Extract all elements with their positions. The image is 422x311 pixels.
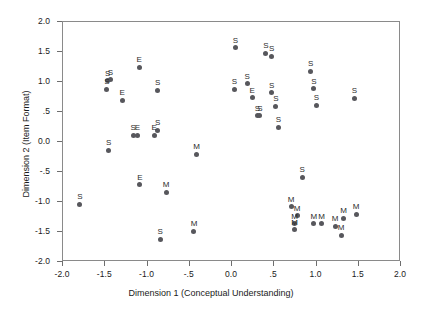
data-point-label: E <box>117 89 127 97</box>
data-point <box>232 87 237 92</box>
data-point-label: E <box>132 124 142 132</box>
x-tick-label: -1.0 <box>130 269 164 279</box>
data-point-label: S <box>242 73 252 81</box>
y-tick <box>57 201 62 202</box>
data-point-label: E <box>149 124 159 132</box>
data-point-label: E <box>135 174 145 182</box>
data-point <box>135 133 140 138</box>
data-point-label: M <box>161 181 171 189</box>
data-point <box>164 190 169 195</box>
x-tick-label: .5 <box>256 269 290 279</box>
data-point-label: S <box>306 60 316 68</box>
data-point <box>191 229 196 234</box>
x-tick-label: -.5 <box>172 269 206 279</box>
y-tick-label: -2.0 <box>20 256 50 266</box>
data-point <box>354 212 359 217</box>
x-tick <box>147 261 148 266</box>
y-axis-title: Dimension 2 (Item Format) <box>21 90 31 197</box>
data-point-label: S <box>271 95 281 103</box>
data-point-label: E <box>247 87 257 95</box>
data-point <box>300 175 305 180</box>
data-point-label: S <box>104 139 114 147</box>
data-point-label: E <box>134 56 144 64</box>
x-tick <box>358 261 359 266</box>
data-point-label: S <box>312 94 322 102</box>
x-tick <box>273 261 274 266</box>
data-point-label: S <box>273 116 283 124</box>
data-point <box>311 221 316 226</box>
data-point-label: M <box>330 215 340 223</box>
data-point-label: S <box>255 105 265 113</box>
data-point-label: M <box>317 213 327 221</box>
data-point <box>137 182 142 187</box>
data-point <box>106 148 111 153</box>
y-tick <box>57 171 62 172</box>
data-point <box>314 103 319 108</box>
x-tick-label: -2.0 <box>45 269 79 279</box>
x-tick <box>62 261 63 266</box>
y-tick-label: 2.0 <box>20 16 50 26</box>
x-tick-label: 2.0 <box>383 269 417 279</box>
data-point-label: S <box>153 79 163 87</box>
data-point-label: S <box>105 69 115 77</box>
y-tick <box>57 81 62 82</box>
data-point <box>276 125 281 130</box>
data-point <box>273 104 278 109</box>
data-point <box>257 113 262 118</box>
data-point <box>245 81 250 86</box>
data-point <box>311 86 316 91</box>
x-tick-label: 0.0 <box>214 269 248 279</box>
data-point-label: S <box>155 228 165 236</box>
x-tick <box>400 261 401 266</box>
data-point-label: S <box>350 87 360 95</box>
data-point <box>269 54 274 59</box>
data-point-label: M <box>192 143 202 151</box>
y-tick <box>57 141 62 142</box>
data-point <box>104 87 109 92</box>
data-point-label: S <box>102 78 112 86</box>
data-point-label: S <box>267 82 277 90</box>
x-tick <box>189 261 190 266</box>
data-point <box>233 45 238 50</box>
data-point-label: S <box>230 78 240 86</box>
data-point <box>250 95 255 100</box>
data-point <box>158 237 163 242</box>
data-point-label: S <box>267 45 277 53</box>
x-tick <box>104 261 105 266</box>
data-point <box>339 233 344 238</box>
y-tick <box>57 51 62 52</box>
data-point-label: M <box>189 220 199 228</box>
plot-area: SSSEESSSESESEMSMMSSSESSSSSSSSSSSSMMMMMMM… <box>62 21 400 261</box>
data-point-label: M <box>290 219 300 227</box>
data-point-label: M <box>286 196 296 204</box>
data-point-label: S <box>75 193 85 201</box>
x-tick <box>231 261 232 266</box>
y-tick <box>57 111 62 112</box>
data-point-label: S <box>297 166 307 174</box>
data-point <box>194 152 199 157</box>
data-point-label: S <box>230 37 240 45</box>
data-point <box>308 69 313 74</box>
data-point-label: M <box>351 203 361 211</box>
data-point <box>341 216 346 221</box>
data-point <box>352 96 357 101</box>
scatter-plot-figure: SSSEESSSESESEMSMMSSSESSSSSSSSSSSSMMMMMMM… <box>0 0 422 311</box>
x-tick-label: -1.5 <box>87 269 121 279</box>
data-point <box>292 227 297 232</box>
data-point-label: S <box>309 78 319 86</box>
x-axis-title: Dimension 1 (Conceptual Understanding) <box>0 288 422 298</box>
x-tick-label: 1.5 <box>341 269 375 279</box>
data-point <box>319 221 324 226</box>
data-point <box>77 202 82 207</box>
data-point-label: M <box>336 224 346 232</box>
data-point-label: M <box>339 207 349 215</box>
data-point <box>152 133 157 138</box>
data-point <box>155 88 160 93</box>
data-point <box>137 65 142 70</box>
y-tick <box>57 231 62 232</box>
data-point <box>120 98 125 103</box>
y-axis-title-wrapper: Dimension 2 (Item Format) <box>15 44 33 244</box>
x-tick-label: 1.0 <box>299 269 333 279</box>
x-tick <box>316 261 317 266</box>
y-tick <box>57 21 62 22</box>
